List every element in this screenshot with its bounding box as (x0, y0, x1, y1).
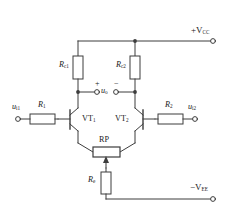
label-output: uo (101, 87, 108, 95)
label-rc2: Rc2 (116, 61, 126, 69)
potentiometer-rp-body (93, 147, 120, 157)
terminal-output-plus (95, 90, 100, 95)
resistor-r1-body (30, 114, 55, 124)
resistor-rc2-body (130, 56, 140, 79)
label-vcc: +VCC (191, 26, 210, 35)
junction-dot-out-left (76, 90, 80, 94)
label-r2: R2 (165, 101, 173, 109)
vt1-collector-lead (70, 108, 78, 115)
label-rp: RP (99, 136, 109, 144)
label-output-minus: − (114, 80, 119, 88)
terminal-input-1 (16, 117, 21, 122)
label-re: Re (88, 176, 95, 184)
label-rc1: Rc1 (59, 61, 69, 69)
terminal-vee (211, 197, 216, 202)
resistor-rc1-body (73, 56, 83, 79)
vt2-emitter-lead (135, 124, 143, 131)
label-r1: R1 (38, 101, 46, 109)
junction-dot-out-right (133, 90, 137, 94)
circuit-diagram-canvas: +VCC −VEE Rc1 Rc2 R1 R2 RP Re VT1 VT2 ui… (0, 0, 236, 210)
label-vt1: VT1 (82, 115, 96, 123)
terminal-vcc (211, 39, 216, 44)
label-input-2: ui2 (188, 103, 196, 111)
terminal-output-minus (114, 90, 119, 95)
junction-dot-top-rail (133, 39, 137, 43)
label-input-1: ui1 (12, 103, 20, 111)
wire-emitter-vt1-to-rp (78, 143, 93, 152)
resistor-r2-body (158, 114, 183, 124)
label-output-plus: + (95, 80, 100, 88)
vt2-collector-lead (135, 108, 143, 115)
label-vt2: VT2 (115, 115, 129, 123)
resistor-re-body (101, 172, 111, 194)
vt1-emitter-lead (70, 124, 78, 131)
terminal-input-2 (193, 117, 198, 122)
wire-emitter-vt2-to-rp (120, 143, 135, 152)
label-vee: −VEE (190, 183, 208, 192)
